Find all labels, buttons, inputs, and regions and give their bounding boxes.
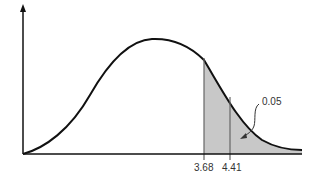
annotation-label: 0.05 [262, 96, 282, 107]
y-axis-arrow-icon [20, 4, 26, 12]
f-distribution-chart: 3.68 4.41 0.05 [0, 0, 315, 179]
density-curve [23, 39, 302, 154]
tick-label-3-68: 3.68 [194, 162, 214, 173]
tick-label-4-41: 4.41 [222, 162, 242, 173]
shaded-tail-area [204, 60, 302, 154]
